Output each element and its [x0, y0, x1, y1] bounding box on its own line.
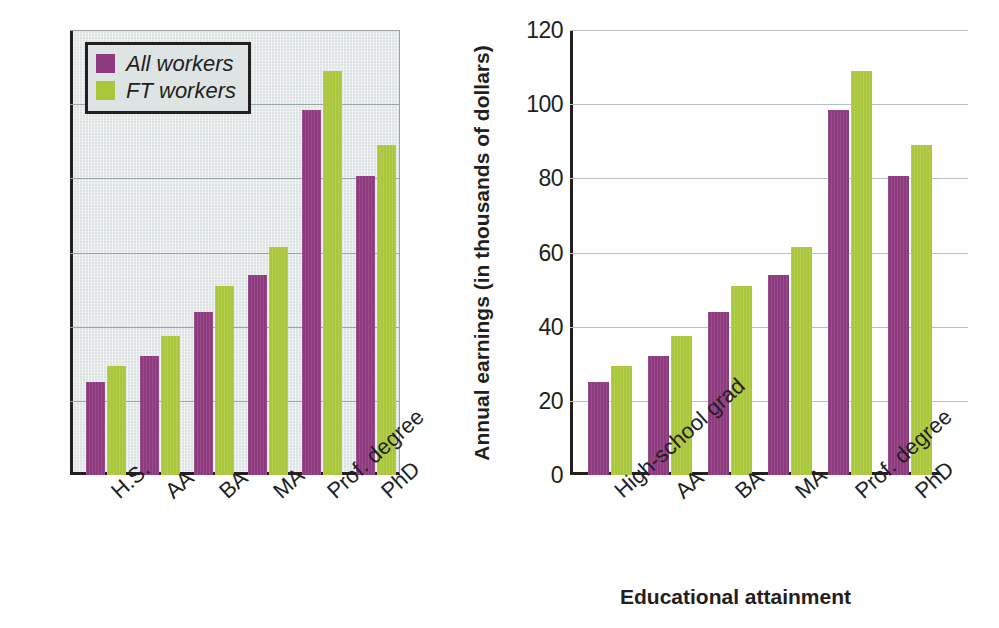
bar-all-workers [888, 176, 909, 475]
y-tick-label: 40 [503, 313, 563, 340]
bar-full-time-workers [791, 247, 812, 475]
bar-all-workers [302, 110, 321, 475]
legend-label-all-workers: All workers [126, 51, 234, 77]
legend-item-ft-workers: FT workers [96, 77, 236, 104]
y-tick-label: 80 [503, 165, 563, 192]
bar-all-workers [828, 110, 849, 475]
bar-full-time-workers [269, 247, 288, 475]
x-axis-labels-left: H.S.AABAMAProf. degreePhD [0, 485, 470, 628]
bar-full-time-workers [215, 286, 234, 475]
y-tick-label: 60 [503, 239, 563, 266]
gridline [70, 178, 400, 179]
gridline [570, 104, 968, 105]
bar-all-workers [356, 176, 375, 475]
bar-all-workers [194, 312, 213, 475]
bar-full-time-workers [611, 366, 632, 475]
y-axis-title-right: Annual earnings (in thousands of dollars… [462, 30, 502, 475]
bar-full-time-workers [107, 366, 126, 475]
gridline-top [70, 30, 400, 31]
y-tick-label: 120 [503, 17, 563, 44]
gridline [70, 327, 400, 328]
bar-full-time-workers [161, 336, 180, 475]
bar-all-workers [86, 382, 105, 475]
gridline [70, 253, 400, 254]
legend-left: All workers FT workers [85, 42, 251, 114]
chart-right: 020406080100120 All workers Full-time wo… [470, 0, 999, 628]
x-axis-title-right: Educational attainment [620, 585, 851, 609]
legend-swatch-all-workers [96, 54, 115, 73]
legend-item-all-workers: All workers [96, 50, 236, 77]
bar-all-workers [588, 382, 609, 475]
legend-swatch-ft-workers [96, 81, 115, 100]
gridline-top [570, 30, 968, 31]
y-axis-title-text: Annual earnings (in thousands of dollars… [470, 45, 494, 460]
chart-left: 020406080100120 All workers FT workers H… [0, 0, 470, 628]
bar-all-workers [768, 275, 789, 475]
y-tick-label: 100 [503, 91, 563, 118]
bar-all-workers [248, 275, 267, 475]
y-tick-label: 20 [503, 387, 563, 414]
bar-full-time-workers [323, 71, 342, 475]
legend-label-ft-workers: FT workers [126, 78, 236, 104]
bar-full-time-workers [851, 71, 872, 475]
bar-all-workers [140, 356, 159, 475]
